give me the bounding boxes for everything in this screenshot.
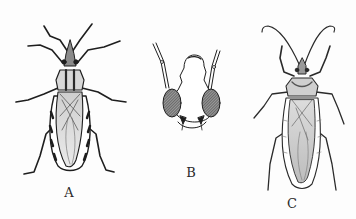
insect-illustrations (0, 0, 356, 219)
panel-label-b: B (186, 166, 196, 179)
figure-canvas: A B C (0, 0, 356, 219)
panel-label-a: A (64, 186, 73, 199)
bug-c-illustration (254, 26, 344, 190)
bug-a-illustration (16, 24, 126, 174)
panel-label-c: C (287, 197, 297, 210)
head-detail-illustration (153, 43, 220, 130)
